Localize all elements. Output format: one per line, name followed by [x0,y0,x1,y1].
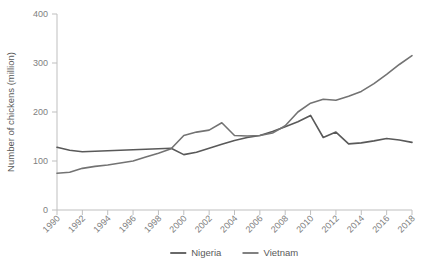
x-tick-label: 2004 [218,213,239,234]
y-tick-group: 0100200300400 [33,9,57,215]
x-tick-label: 2016 [370,213,391,234]
y-tick-label: 0 [43,205,48,215]
y-tick-label: 100 [33,156,48,166]
chart-legend: NigeriaVietnam [170,247,298,258]
y-tick-label: 300 [33,58,48,68]
x-tick-label: 1990 [41,213,62,234]
y-axis-group: 0100200300400 [33,9,57,215]
y-axis-label: Number of chickens (million) [5,52,16,172]
x-tick-group: 1990199219941996199820002002200420062008… [41,210,417,235]
x-tick-label: 2018 [396,213,417,234]
line-chart: 0100200300400 19901992199419961998200020… [0,0,423,268]
chart-canvas: 0100200300400 19901992199419961998200020… [0,0,423,268]
series-group [57,56,412,174]
x-tick-label: 1998 [142,213,163,234]
x-tick-label: 1992 [66,213,87,234]
x-tick-label: 1994 [91,213,112,234]
x-tick-label: 2008 [269,213,290,234]
x-tick-label: 2000 [167,213,188,234]
y-tick-label: 400 [33,9,48,19]
x-tick-label: 2010 [294,213,315,234]
legend-label-vietnam: Vietnam [264,247,299,258]
x-tick-label: 1996 [117,213,138,234]
legend-label-nigeria: Nigeria [191,247,222,258]
y-tick-label: 200 [33,107,48,117]
x-tick-label: 2006 [244,213,265,234]
x-tick-label: 2014 [345,213,366,234]
series-line-vietnam [57,56,412,174]
x-tick-label: 2002 [193,213,214,234]
x-axis-group: 1990199219941996199820002002200420062008… [41,210,417,235]
x-tick-label: 2012 [320,213,341,234]
